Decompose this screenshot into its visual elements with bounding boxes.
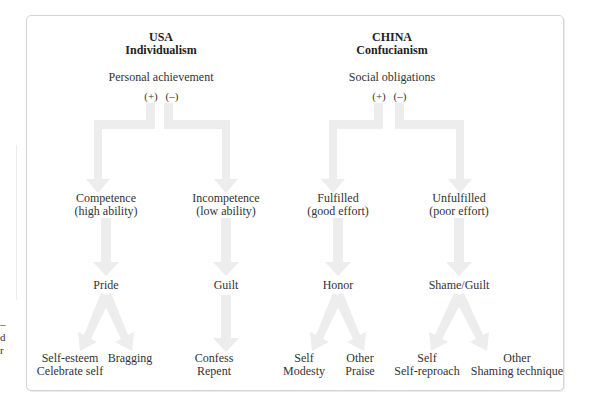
arrow-usa-negative <box>164 103 238 193</box>
china-honor-other-label: Other <box>346 351 373 365</box>
china-shame-self-label: Self <box>417 351 436 365</box>
usa-bragging-label: Bragging <box>108 351 153 365</box>
usa-incompetence-sub-label: (low ability) <box>196 204 256 218</box>
usa-root-label: Personal achievement <box>109 70 214 84</box>
usa-celebrate-self-label: Celebrate self <box>37 364 103 378</box>
arrow-shame-split-right <box>454 293 489 351</box>
arrow-china-negative <box>395 103 472 193</box>
china-fulfilled-label: Fulfilled <box>317 191 358 205</box>
china-positive-sign: (+) <box>372 89 386 103</box>
arrow-guilt-confess <box>213 295 239 352</box>
china-fulfilled-sub-label: (good effort) <box>307 204 368 218</box>
china-honor-self-label: Self <box>294 351 313 365</box>
china-modesty-label: Modesty <box>283 364 325 378</box>
usa-country-label: USA <box>149 30 173 44</box>
arrow-china-positive <box>321 103 383 193</box>
china-honor-label: Honor <box>323 278 354 292</box>
usa-repent-label: Repent <box>197 364 231 378</box>
arrow-honor-split-right <box>333 293 366 351</box>
usa-incompetence-label: Incompetence <box>192 191 259 205</box>
arrow-fulfilled-honor <box>325 218 351 276</box>
usa-competence-label: Competence <box>76 191 136 205</box>
china-negative-sign: (–) <box>394 89 407 103</box>
arrow-competence-pride <box>93 218 119 276</box>
china-praise-label: Praise <box>345 364 374 378</box>
usa-positive-sign: (+) <box>144 89 158 103</box>
arrow-usa-positive <box>86 103 155 193</box>
usa-guilt-label: Guilt <box>214 278 239 292</box>
usa-self-esteem-label: Self-esteem <box>42 351 99 365</box>
china-root-label: Social obligations <box>349 70 435 84</box>
arrow-incompetence-guilt <box>213 218 239 276</box>
usa-confess-label: Confess <box>195 351 234 365</box>
china-shame-other-label: Other <box>503 351 530 365</box>
usa-ideology-label: Individualism <box>125 43 196 57</box>
china-shaming-technique-label: Shaming technique <box>471 364 563 378</box>
arrow-pride-split-right <box>101 293 134 351</box>
china-self-reproach-label: Self-reproach <box>394 364 459 378</box>
usa-pride-label: Pride <box>93 278 118 292</box>
china-unfulfilled-label: Unfulfilled <box>432 191 485 205</box>
china-unfulfilled-sub-label: (poor effort) <box>429 204 488 218</box>
usa-negative-sign: (–) <box>166 89 179 103</box>
arrow-unfulfilled-shame <box>446 218 472 276</box>
china-shame-guilt-label: Shame/Guilt <box>429 278 490 292</box>
china-country-label: CHINA <box>372 30 412 44</box>
usa-competence-sub-label: (high ability) <box>75 204 138 218</box>
china-ideology-label: Confucianism <box>356 43 427 57</box>
